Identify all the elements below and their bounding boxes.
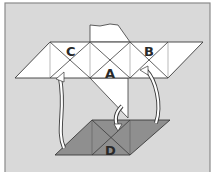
- label-c: C: [66, 44, 76, 59]
- label-a: A: [105, 66, 115, 81]
- label-d: D: [105, 143, 116, 158]
- diagram-frame: C B A D: [0, 0, 219, 172]
- label-b: B: [144, 44, 154, 59]
- folding-net-diagram: C B A D: [0, 0, 219, 172]
